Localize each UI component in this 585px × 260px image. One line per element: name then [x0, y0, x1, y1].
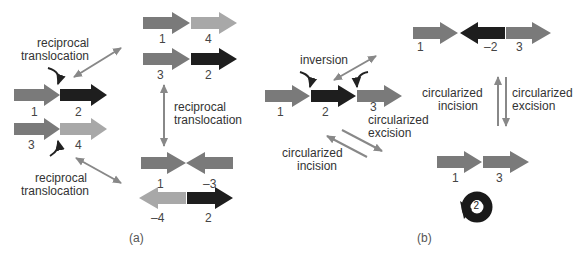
circular-gene-2: 2 [460, 196, 488, 219]
gene-arrow-2 [60, 84, 107, 106]
gene-label: 3 [28, 138, 35, 152]
reciprocal-translocation-label: reciprocal translocation [21, 171, 90, 198]
gene-arrow-3 [506, 22, 551, 44]
breakpoint-arrow-icon [300, 72, 311, 87]
breakpoint-arrow-icon [50, 141, 58, 156]
gene-label: 1 [157, 177, 164, 191]
gene-label: –3 [203, 177, 217, 191]
circularized-incision-label: circularized incision [282, 146, 346, 173]
gene-arrow-neg3 [186, 152, 233, 174]
gene-label: 2 [75, 105, 82, 119]
circularized-incision-label: circularized incision [422, 86, 486, 113]
gene-arrow-3 [143, 48, 190, 70]
gene-label: 2 [205, 211, 212, 225]
gene-arrow-4 [191, 12, 237, 34]
gene-label: 2 [205, 68, 212, 82]
gene-label: 2 [322, 105, 329, 119]
gene-label: 1 [159, 32, 166, 46]
gene-label: 3 [516, 40, 523, 54]
breakpoint-arrow-icon [48, 68, 59, 84]
gene-label: –4 [151, 211, 165, 225]
gene-arrow-1 [14, 84, 60, 106]
circularized-excision-label: circularized excision [512, 86, 576, 113]
inversion-label: inversion [300, 53, 348, 67]
gene-label: 4 [75, 138, 82, 152]
gene-label: 1 [31, 105, 38, 119]
panel-a: 1 2 3 4 reciprocal translocation recipro… [14, 12, 242, 245]
gene-arrow-3 [483, 151, 529, 173]
gene-arrow-3 [14, 118, 60, 140]
gene-arrow-1 [143, 12, 190, 34]
gene-label: 1 [452, 171, 459, 185]
gene-label: 3 [370, 100, 377, 114]
panel-caption: (a) [129, 231, 144, 245]
genome-rearrangement-diagram: 1 2 3 4 reciprocal translocation recipro… [0, 0, 585, 260]
gene-label: 3 [157, 68, 164, 82]
circularized-excision-label: circularized excision [368, 113, 432, 140]
panel-caption: (b) [417, 231, 432, 245]
gene-label: 1 [417, 40, 424, 54]
gene-arrow-1 [265, 85, 310, 107]
gene-arrow-1 [437, 151, 482, 173]
reciprocal-translocation-label: reciprocal translocation [21, 36, 92, 63]
gene-label: 2 [474, 200, 480, 211]
gene-arrow-neg2 [460, 22, 505, 44]
breakpoint-arrow-icon [357, 72, 368, 87]
gene-arrow-1 [141, 152, 186, 174]
gene-arrow-2 [191, 48, 237, 70]
gene-label: 1 [277, 105, 284, 119]
gene-label: –2 [484, 40, 498, 54]
panel-b: 1 2 3 inversion circularized excision ci… [265, 22, 576, 245]
gene-label: 4 [205, 32, 212, 46]
gene-label: 3 [496, 171, 503, 185]
gene-arrow-3 [357, 85, 402, 107]
gene-arrow-4 [60, 118, 107, 140]
reciprocal-translocation-label: reciprocal translocation [174, 100, 242, 127]
gene-arrow-2 [311, 85, 356, 107]
